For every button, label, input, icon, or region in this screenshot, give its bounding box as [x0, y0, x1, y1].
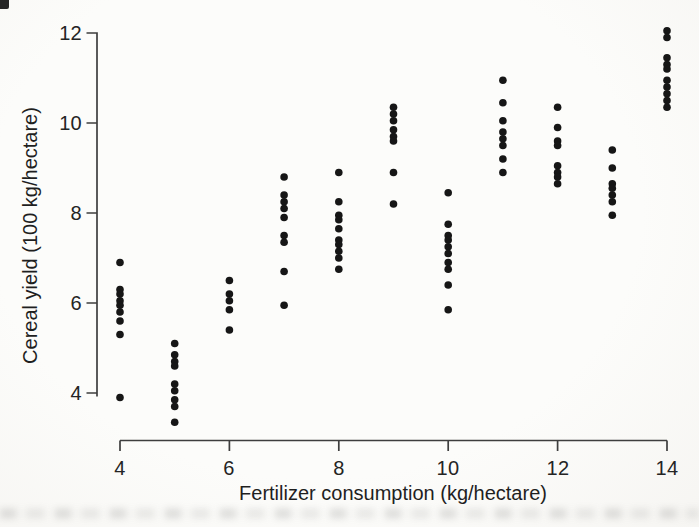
data-point	[444, 306, 452, 314]
data-point	[171, 403, 179, 411]
data-point	[499, 155, 507, 163]
x-tick-label: 8	[319, 456, 359, 480]
data-point	[116, 308, 124, 316]
x-tick-label: 6	[209, 456, 249, 480]
data-point	[171, 362, 179, 370]
data-point	[171, 387, 179, 395]
data-point	[226, 277, 234, 285]
data-point	[116, 317, 124, 325]
data-point	[171, 340, 179, 348]
data-point	[280, 198, 288, 206]
y-tick-label: 10	[42, 111, 82, 135]
data-point	[390, 126, 398, 134]
data-point	[280, 268, 288, 276]
y-tick-label: 4	[42, 381, 82, 405]
data-point	[663, 104, 671, 112]
data-point	[335, 241, 343, 249]
x-tick-label: 4	[100, 456, 140, 480]
data-point	[390, 117, 398, 125]
data-point	[444, 250, 452, 258]
data-point	[609, 184, 617, 192]
data-point	[280, 214, 288, 222]
y-tick-label: 8	[42, 201, 82, 225]
data-point	[609, 146, 617, 154]
data-point	[663, 65, 671, 73]
data-point	[554, 104, 562, 112]
data-point	[226, 306, 234, 314]
y-axis-title: Cereal yield (100 kg/hectare)	[19, 85, 42, 387]
data-point	[663, 83, 671, 91]
data-point	[663, 27, 671, 35]
data-point	[499, 99, 507, 107]
data-point	[609, 198, 617, 206]
x-tick-label: 10	[428, 456, 468, 480]
data-point	[280, 191, 288, 199]
data-point	[280, 205, 288, 213]
scan-bottom-artifact	[0, 508, 699, 519]
data-point	[609, 191, 617, 199]
data-point	[280, 173, 288, 181]
data-point	[663, 90, 671, 98]
data-point	[444, 281, 452, 289]
data-point	[335, 247, 343, 255]
data-point	[554, 124, 562, 132]
data-point	[499, 142, 507, 150]
data-point	[444, 189, 452, 197]
data-point	[335, 216, 343, 224]
data-point	[444, 236, 452, 244]
data-point	[171, 380, 179, 388]
data-point	[390, 110, 398, 118]
data-point	[609, 212, 617, 220]
data-point	[499, 77, 507, 85]
data-point	[499, 128, 507, 136]
data-point	[444, 243, 452, 251]
data-point	[663, 77, 671, 85]
data-point	[554, 162, 562, 170]
data-point	[335, 254, 343, 262]
data-point	[444, 221, 452, 229]
data-point	[116, 302, 124, 310]
y-tick-label: 6	[42, 291, 82, 315]
data-point	[335, 169, 343, 177]
data-point	[171, 419, 179, 427]
x-tick-label: 14	[647, 456, 687, 480]
data-point	[116, 331, 124, 339]
data-point	[335, 225, 343, 233]
data-point	[280, 232, 288, 240]
data-point	[116, 290, 124, 298]
data-point	[663, 34, 671, 42]
data-point	[280, 302, 288, 310]
data-point	[171, 351, 179, 359]
data-point	[116, 394, 124, 402]
data-point	[390, 104, 398, 112]
data-point	[226, 326, 234, 334]
data-point	[335, 198, 343, 206]
data-point	[663, 97, 671, 105]
scatter-plot-figure: Cereal yield (100 kg/hectare) Fertilizer…	[0, 0, 699, 527]
data-point	[554, 142, 562, 150]
data-point	[444, 259, 452, 267]
data-point	[499, 117, 507, 125]
data-point	[554, 180, 562, 188]
data-point	[444, 266, 452, 274]
data-point	[609, 164, 617, 172]
data-point	[499, 135, 507, 143]
x-axis-title: Fertilizer consumption (kg/hectare)	[193, 482, 593, 505]
data-point	[116, 259, 124, 267]
data-point	[280, 239, 288, 247]
data-point	[335, 266, 343, 274]
data-point	[663, 54, 671, 62]
data-point	[390, 169, 398, 177]
y-tick-label: 12	[42, 21, 82, 45]
data-point	[226, 290, 234, 298]
x-tick-label: 12	[538, 456, 578, 480]
data-point	[390, 137, 398, 145]
data-point	[171, 396, 179, 404]
data-point	[554, 173, 562, 181]
data-point	[499, 169, 507, 177]
data-point	[226, 297, 234, 305]
data-point	[390, 200, 398, 208]
scatter-plot-canvas	[0, 0, 699, 527]
